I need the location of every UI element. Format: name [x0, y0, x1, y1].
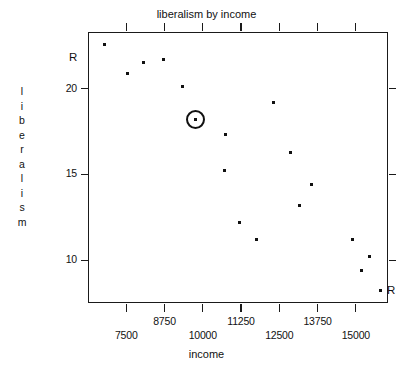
data-point [272, 101, 275, 104]
x-tick-mark [126, 304, 127, 312]
y-axis-title-char: b [14, 113, 30, 128]
data-point [142, 61, 145, 64]
data-point [360, 269, 363, 272]
x-tick-mark [202, 23, 203, 31]
data-point [126, 72, 129, 75]
x-tick-label: 13750 [288, 316, 348, 327]
point-annotation-label: R [69, 51, 77, 63]
x-tick-mark [240, 304, 241, 312]
data-point [103, 43, 106, 46]
x-axis-title: income [0, 348, 413, 360]
data-point [379, 289, 382, 292]
x-tick-mark [355, 304, 356, 312]
data-point [181, 85, 184, 88]
y-tick-label: 10 [45, 254, 77, 265]
x-tick-label: 11250 [211, 316, 271, 327]
y-axis-title-char: i [14, 99, 30, 114]
x-tick-mark [126, 23, 127, 31]
x-tick-mark [317, 23, 318, 31]
data-point [238, 221, 241, 224]
x-tick-mark [202, 304, 203, 312]
y-tick-label: 15 [45, 168, 77, 179]
y-axis-title-char: m [14, 215, 30, 230]
plot-area [88, 32, 388, 303]
y-axis-title-char: s [14, 200, 30, 215]
x-tick-mark [317, 304, 318, 312]
y-tick-label: 20 [45, 83, 77, 94]
point-annotation-label: R [387, 284, 395, 296]
x-tick-label: 12500 [249, 330, 309, 341]
y-axis-title-char: l [14, 84, 30, 99]
y-axis-title: l i b e r a l i s m [14, 84, 30, 229]
data-point [162, 58, 165, 61]
y-axis-title-char: e [14, 128, 30, 143]
x-tick-label: 8750 [135, 316, 195, 327]
y-axis-title-char: l [14, 171, 30, 186]
y-axis-title-char: a [14, 157, 30, 172]
data-point [224, 133, 227, 136]
y-tick-mark [389, 88, 396, 89]
data-point [289, 151, 292, 154]
data-point [351, 238, 354, 241]
y-tick-mark [81, 174, 88, 175]
x-tick-mark [355, 23, 356, 31]
y-tick-mark [81, 88, 88, 89]
scatter-plot-figure: liberalism by income l i b e r a l i s m… [0, 0, 413, 367]
y-axis-title-char: i [14, 186, 30, 201]
x-tick-mark [164, 304, 165, 312]
y-tick-mark [389, 174, 396, 175]
x-tick-mark [279, 304, 280, 312]
x-tick-label: 7500 [96, 330, 156, 341]
data-point [310, 183, 313, 186]
chart-title: liberalism by income [0, 8, 413, 20]
data-point [298, 204, 301, 207]
data-point [255, 238, 258, 241]
data-point [223, 169, 226, 172]
y-axis-title-char: r [14, 142, 30, 157]
x-tick-mark [240, 23, 241, 31]
data-point [368, 255, 371, 258]
x-tick-mark [164, 23, 165, 31]
highlighted-point-ring[interactable] [186, 110, 205, 129]
x-tick-label: 10000 [173, 330, 233, 341]
y-tick-mark [81, 260, 88, 261]
y-tick-mark [389, 260, 396, 261]
x-tick-label: 15000 [326, 330, 386, 341]
x-tick-mark [279, 23, 280, 31]
